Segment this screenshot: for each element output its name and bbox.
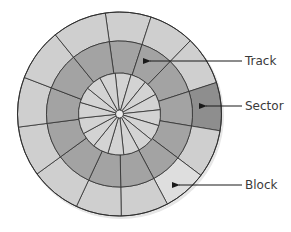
spindle-hub [116,110,124,118]
spindle-hole [116,110,124,118]
highlighted-sector [189,82,222,130]
track-label: Track [245,54,276,68]
block-label: Block [245,178,277,192]
sector-label: Sector [245,99,284,113]
disk-diagram [0,0,291,232]
